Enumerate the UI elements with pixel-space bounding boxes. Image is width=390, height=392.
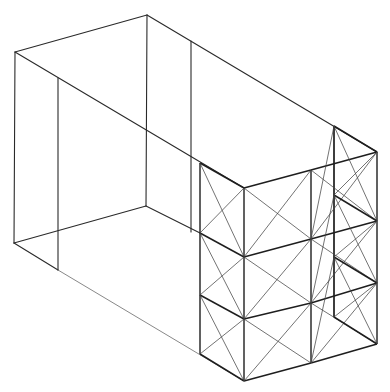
scaffold-cross-brace [244, 303, 311, 381]
scaffold-side-brace [311, 126, 334, 239]
scaffold-cross-brace [200, 319, 244, 354]
scaffold-beam [311, 152, 377, 170]
scaffold-cross-brace [334, 283, 377, 317]
frame-edge [14, 243, 58, 270]
scaffold-beam [244, 239, 311, 257]
scaffold-tower [200, 126, 377, 381]
scaffold-beam [200, 233, 244, 257]
scaffold-beam [244, 363, 311, 381]
scaffold-box-diagram [0, 0, 390, 392]
box-frame [14, 15, 377, 381]
scaffold-cross-brace [311, 152, 377, 239]
scaffold-beam [311, 221, 377, 239]
scaffold-cross-brace [244, 257, 311, 303]
scaffold-beam [311, 344, 377, 363]
scaffold-cross-brace [200, 257, 244, 295]
frame-edge [14, 52, 15, 243]
scaffold-beam [200, 295, 244, 319]
scaffold-beam [244, 170, 311, 188]
frame-edge [146, 15, 147, 206]
scaffold-beam [200, 163, 244, 188]
scaffold-side-brace [311, 257, 334, 363]
scaffold-cross-brace [200, 188, 244, 233]
frame-edge [146, 206, 200, 233]
scaffold-cross-brace [244, 170, 311, 257]
scaffold-beam [244, 303, 311, 319]
scaffold-side-brace [311, 195, 334, 303]
scaffold-cross-brace [244, 319, 311, 363]
frame-edge [15, 15, 147, 52]
scaffold-beam [334, 126, 377, 152]
scaffold-cross-brace [244, 239, 311, 319]
scaffold-beam [311, 283, 377, 303]
frame-edge [14, 206, 146, 243]
frame-edge [15, 52, 244, 188]
